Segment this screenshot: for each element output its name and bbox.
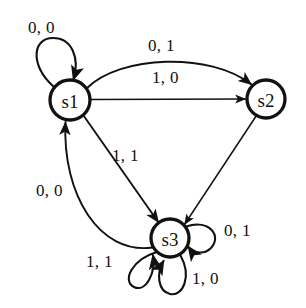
- edge-label-s3-self-loop-right: 0, 1: [224, 222, 251, 239]
- node-s2[interactable]: s2: [247, 80, 285, 118]
- edge-path-s3-self-loop-left: [129, 253, 156, 289]
- edge-label-s1-to-s3: 1, 1: [112, 147, 139, 164]
- edge-label-s3-self-loop-bottom: 1, 0: [192, 270, 219, 287]
- edge-label-s3-to-s1: 0, 0: [36, 182, 63, 199]
- node-label-s1: s1: [62, 91, 79, 112]
- node-label-s2: s2: [258, 90, 275, 111]
- edge-path-s3-self-loop-bottom: [159, 256, 186, 295]
- edge-label-s1-to-s2-straight: 1, 0: [152, 69, 179, 86]
- node-label-s3: s3: [162, 229, 179, 250]
- state-machine-diagram: s1 s2 s3 0, 0 0, 1 1, 0 1, 1 0, 0 0, 1 1…: [0, 0, 306, 308]
- edge-s1-to-s3: [84, 116, 159, 223]
- edge-label-s3-self-loop-left: 1, 1: [86, 253, 113, 270]
- edge-label-s1-to-s2-curved: 0, 1: [148, 37, 175, 54]
- edge-path-s2-to-s3: [185, 116, 257, 225]
- edge-label-s1-self-loop: 0, 0: [28, 19, 55, 36]
- edge-path-s1-to-s3: [84, 116, 159, 223]
- node-s3[interactable]: s3: [151, 219, 189, 257]
- edge-s3-to-s1: [65, 122, 152, 248]
- edge-path-s3-to-s1: [65, 122, 152, 248]
- node-s1[interactable]: s1: [50, 80, 90, 120]
- edge-s2-to-s3: [185, 116, 257, 225]
- edge-s3-self-loop-left: [129, 253, 156, 289]
- edge-s3-self-loop-bottom: [159, 256, 186, 295]
